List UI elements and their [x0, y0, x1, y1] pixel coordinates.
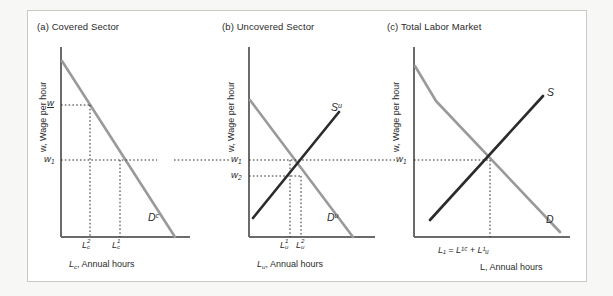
panel-c-equilibrium-equation: L₁ = L¹ᶜ + L¹ᵤ [438, 245, 489, 255]
tick-lc1-scripts: 1c1 [117, 240, 120, 250]
panel-c-supply-label: S [547, 86, 554, 98]
panel-a-demand-label: Dc [148, 211, 159, 223]
w1-symbol-c: w [396, 153, 403, 164]
panel-b-title: (b) Uncovered Sector [222, 21, 314, 32]
w2-subscript-b: 2 [238, 174, 242, 181]
supply-base: S [547, 86, 554, 98]
wbar-symbol: w [47, 98, 54, 108]
panel-a-wage-label-wbar: w [47, 97, 54, 108]
panel-b-demand-label: Du [327, 211, 339, 223]
demand-c-sup: c [156, 212, 160, 220]
panel-b-supply-label: Su [331, 101, 342, 113]
panel-b-axes [249, 47, 375, 237]
panel-c-demand-label: D [546, 213, 554, 225]
panel-c-title: (c) Total Labor Market [387, 21, 481, 32]
panel-c-y-axis-label: w, Wage per hour [391, 82, 401, 152]
panel-a-wage-label-w1: w1 [44, 153, 54, 165]
chart-vector-layer [0, 0, 613, 296]
demand-u-base: D [327, 211, 335, 223]
tick-lc2-scripts: 2c2 [87, 240, 90, 250]
panel-a-tick-lc2: L2c2 [82, 240, 90, 250]
panel-c-wage-label-w1: w1 [396, 153, 406, 165]
panel-a-axes [61, 47, 190, 237]
figure-container: (a) Covered Sector w, Wage per hour w w1… [0, 0, 613, 296]
panel-c-x-axis-text: L, Annual hours [480, 262, 543, 272]
panel-a-y-axis-label: w, Wage per hour [38, 82, 48, 152]
panel-b-y-axis-label: w, Wage per hour [226, 82, 236, 152]
w1-subscript-c: 1 [403, 158, 407, 165]
panel-b-tick-lu2: L2u2 [296, 240, 304, 250]
panel-b-x-axis-rest: , Annual hours [265, 259, 323, 269]
panel-b-wage-label-w1: w1 [231, 153, 241, 165]
panel-b-tick-lu1: L1u1 [280, 240, 288, 250]
panel-a-tick-lc1: L1c1 [112, 240, 120, 250]
panel-c-demand-curve [415, 66, 560, 232]
demand-base: D [546, 213, 554, 225]
supply-u-base: S [331, 101, 338, 113]
panel-a-x-axis-label: Lc, Annual hours [69, 259, 135, 270]
w1-symbol-a: w [44, 153, 51, 164]
panel-a-title: (a) Covered Sector [37, 21, 119, 32]
supply-u-sup: u [338, 102, 342, 110]
demand-u-sup: u [335, 212, 339, 220]
w1-subscript-a: 1 [51, 158, 55, 165]
panel-c-axes [414, 47, 570, 237]
panel-c-supply-curve [430, 96, 543, 220]
panel-b-x-axis-label: Lu, Annual hours [257, 259, 323, 270]
w1-subscript-b: 1 [238, 158, 242, 165]
panel-b-wage-label-w2: w2 [231, 169, 241, 181]
tick-lu1-scripts: 1u1 [285, 240, 288, 250]
panel-c-x-axis-label: L, Annual hours [480, 262, 543, 272]
tick-lu2-scripts: 2u2 [301, 240, 304, 250]
demand-c-base: D [148, 211, 156, 223]
w1-symbol-b: w [231, 153, 238, 164]
panel-a-x-axis-rest: , Annual hours [77, 259, 135, 269]
w2-symbol-b: w [231, 169, 238, 180]
